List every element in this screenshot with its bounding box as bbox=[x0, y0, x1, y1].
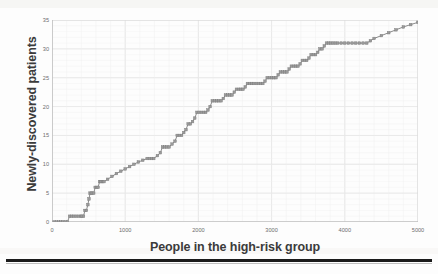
chart-canvas bbox=[52, 20, 418, 222]
y-tick-label: 15 bbox=[6, 132, 52, 138]
x-tick-labels: 010002000300040005000 bbox=[0, 227, 438, 239]
x-tick-label: 2000 bbox=[192, 227, 204, 233]
x-tick-label: 3000 bbox=[265, 227, 277, 233]
y-tick-label: 5 bbox=[6, 190, 52, 196]
scan-noise-top bbox=[0, 0, 438, 8]
plot-frame bbox=[52, 20, 418, 222]
chart-figure: Newly-discovered patients 05101520253035… bbox=[0, 0, 438, 274]
y-tick-label: 0 bbox=[6, 219, 52, 225]
plot-area bbox=[52, 20, 418, 222]
x-tick-label: 4000 bbox=[339, 227, 351, 233]
footer-rule-secondary bbox=[6, 263, 432, 264]
y-tick-label: 20 bbox=[6, 104, 52, 110]
gridlines bbox=[52, 20, 418, 222]
y-tick-label: 35 bbox=[6, 17, 52, 23]
y-tick-label: 30 bbox=[6, 46, 52, 52]
footer-rule bbox=[6, 259, 432, 262]
data-series bbox=[53, 21, 418, 222]
y-tick-label: 25 bbox=[6, 75, 52, 81]
y-tick-label: 10 bbox=[6, 161, 52, 167]
x-tick-label: 5000 bbox=[412, 227, 424, 233]
x-tick-label: 1000 bbox=[119, 227, 131, 233]
x-axis-title: People in the high-risk group bbox=[52, 240, 418, 254]
x-tick-label: 0 bbox=[50, 227, 53, 233]
